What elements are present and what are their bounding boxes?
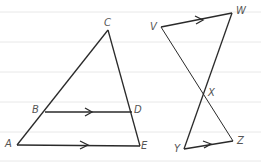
segment-vz <box>161 27 233 141</box>
ruled-lines <box>0 12 261 161</box>
label-c: C <box>104 18 111 28</box>
triangle-ace <box>17 30 140 149</box>
bowtie-figure <box>161 13 233 149</box>
label-x: X <box>208 88 215 98</box>
segment-ae <box>17 145 140 146</box>
segment-ac <box>17 30 108 145</box>
diagram-canvas <box>0 0 261 164</box>
label-a: A <box>5 139 12 149</box>
label-d: D <box>134 105 142 115</box>
label-v: V <box>150 22 157 32</box>
parallel-arrow-yz-icon <box>203 141 211 148</box>
label-w: W <box>236 6 246 16</box>
label-e: E <box>141 141 147 151</box>
label-z: Z <box>237 136 244 146</box>
diagram: A B C D E V W X Y Z <box>0 0 261 164</box>
label-y: Y <box>174 144 180 154</box>
label-b: B <box>32 105 39 115</box>
segment-vw <box>161 13 232 27</box>
segment-ce <box>108 30 140 146</box>
